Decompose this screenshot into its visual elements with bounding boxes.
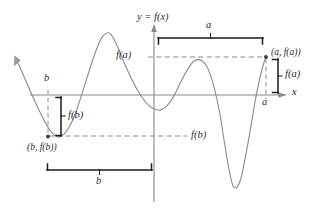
function-curve xyxy=(14,33,266,188)
f-of-b-axis-label: f(b) xyxy=(191,130,206,141)
x-axis-label: x xyxy=(292,87,297,98)
a-tick-label: a xyxy=(262,97,267,108)
x-axis xyxy=(30,92,286,98)
b-bracket xyxy=(47,164,152,175)
a-bracket xyxy=(158,34,263,45)
y-axis xyxy=(151,24,157,202)
marked-points xyxy=(46,55,268,138)
point-b-marker xyxy=(46,135,50,139)
point-a-marker xyxy=(264,55,268,59)
y-axis-label: y = f(x) xyxy=(137,12,169,23)
b-tick-label: b xyxy=(44,73,49,84)
f-of-a-bracket-label: f(a) xyxy=(285,69,300,80)
point-b-label: (b, f(b)) xyxy=(27,143,57,153)
f-of-b-bracket xyxy=(56,97,65,136)
function-graph-figure: y = f(x) x a b f(a) f(a) f(b) f(b) b a (… xyxy=(0,0,317,211)
f-of-a-bracket xyxy=(273,59,283,93)
point-a-label: (a, f(a)) xyxy=(271,48,301,58)
graph-canvas xyxy=(0,0,317,211)
f-of-b-bracket-label: f(b) xyxy=(68,110,83,121)
a-bracket-label: a xyxy=(206,20,211,31)
f-of-a-axis-label: f(a) xyxy=(116,50,131,61)
b-bracket-label: b xyxy=(96,176,101,187)
